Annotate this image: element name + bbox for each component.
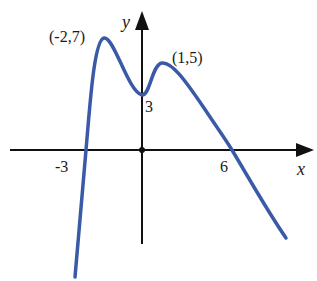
x-intercept-right-label: 6 (220, 158, 228, 175)
graph-canvas: (-2,7) (1,5) 3 -3 6 x y (0, 0, 317, 281)
y-axis-label: y (120, 12, 130, 32)
x-axis-arrow-icon (296, 143, 314, 157)
max-left-label: (-2,7) (49, 28, 85, 46)
y-axis-arrow-icon (135, 11, 149, 30)
max-right-label: (1,5) (172, 49, 203, 67)
origin-point (139, 147, 145, 153)
x-axis-label: x (296, 159, 305, 179)
function-curve (75, 38, 286, 277)
x-intercept-left-label: -3 (55, 158, 68, 175)
y-intercept-label: 3 (145, 98, 153, 115)
